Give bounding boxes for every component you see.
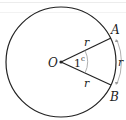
point-b-label: B [109, 90, 119, 104]
radian-diagram: O A B r r r 1 c [0, 0, 126, 120]
arc-arrow-top-icon [115, 39, 119, 42]
arc-arrow-bottom-icon [115, 82, 119, 85]
arc-length-label: r [118, 56, 124, 69]
angle-arc [85, 51, 88, 74]
angle-unit-label: c [81, 55, 85, 63]
center-label: O [48, 56, 58, 70]
point-a-label: A [110, 23, 120, 37]
angle-label: 1 [74, 57, 81, 70]
center-point [59, 60, 62, 63]
radius-label-lower: r [84, 77, 90, 90]
radius-label-upper: r [84, 36, 90, 49]
